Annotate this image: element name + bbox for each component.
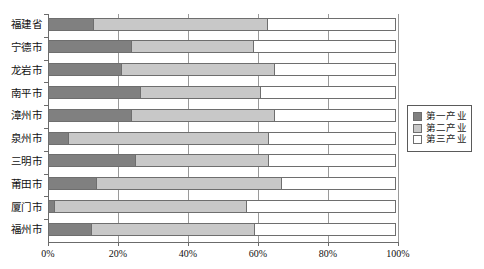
y-axis-label-1: 宁德市 [11,43,42,54]
legend-swatch-icon-2 [413,135,422,144]
y-axis-label-6: 三明市 [11,157,42,168]
stacked-bar[interactable] [48,223,398,236]
bar-segment-2[interactable] [91,223,256,236]
y-axis-label-5: 泉州市 [11,134,42,145]
y-axis-tick-4 [44,105,48,106]
bar-segment-1[interactable] [48,177,97,190]
stacked-bar[interactable] [48,177,398,190]
stacked-bar[interactable] [48,109,398,122]
bar-row: 福建省 [48,14,398,37]
bar-segment-2[interactable] [96,177,282,190]
x-axis-line [48,242,398,243]
bar-segment-3[interactable] [267,18,397,31]
x-axis-tick-label-3: 60% [249,248,267,259]
chart-legend: 第一产业 第二产业 第三产业 [407,105,472,152]
stacked-bar[interactable] [48,132,398,145]
y-axis-label-8: 厦门市 [11,203,42,214]
y-axis-tick-2 [44,60,48,61]
x-axis-tick-label-5: 100% [386,248,409,259]
stacked-bar-chart: 福建省宁德市龙岩市南平市漳州市泉州市三明市莆田市厦门市福州市 0%20%40%6… [0,0,484,269]
x-axis-tick-label-2: 40% [179,248,197,259]
y-axis-tick-3 [44,82,48,83]
x-axis-tick-label-4: 80% [319,248,337,259]
bar-segment-2[interactable] [93,18,268,31]
bar-segment-3[interactable] [281,177,397,190]
plot-area: 福建省宁德市龙岩市南平市漳州市泉州市三明市莆田市厦门市福州市 [48,14,398,242]
bar-segment-3[interactable] [268,132,396,145]
bar-segment-1[interactable] [48,40,132,53]
stacked-bar[interactable] [48,40,398,53]
y-axis-label-2: 龙岩市 [11,66,42,77]
x-axis-tick-1 [118,242,119,246]
y-axis-label-7: 莆田市 [11,180,42,191]
y-axis-tick-0 [44,14,48,15]
bar-segment-2[interactable] [121,63,275,76]
bar-segment-1[interactable] [48,18,94,31]
bar-row: 厦门市 [48,196,398,219]
legend-label-0: 第一产业 [426,112,467,122]
bar-segment-3[interactable] [254,223,396,236]
legend-label-1: 第二产业 [426,124,467,134]
bar-row: 泉州市 [48,128,398,151]
bar-segment-1[interactable] [48,63,122,76]
bar-segment-3[interactable] [268,154,396,167]
bar-row: 三明市 [48,151,398,174]
x-axis-tick-label-0: 0% [41,248,54,259]
bar-row: 龙岩市 [48,60,398,83]
x-axis-tick-0 [48,242,49,246]
legend-item-0[interactable]: 第一产业 [413,112,466,122]
stacked-bar[interactable] [48,200,398,213]
gridline-100 [398,14,399,242]
bar-segment-3[interactable] [274,109,397,122]
bar-segment-2[interactable] [131,40,254,53]
legend-swatch-icon-1 [413,124,422,133]
stacked-bar[interactable] [48,86,398,99]
y-axis-tick-6 [44,151,48,152]
bar-segment-3[interactable] [274,63,397,76]
y-axis-tick-8 [44,196,48,197]
stacked-bar[interactable] [48,154,398,167]
bar-row: 南平市 [48,82,398,105]
legend-item-1[interactable]: 第二产业 [413,124,466,134]
bar-segment-1[interactable] [48,223,92,236]
bar-segment-2[interactable] [135,154,270,167]
legend-item-2[interactable]: 第三产业 [413,135,466,145]
stacked-bar[interactable] [48,63,398,76]
legend-label-2: 第三产业 [426,135,467,145]
y-axis-label-0: 福建省 [11,20,42,31]
bar-segment-1[interactable] [48,86,141,99]
y-axis-label-3: 南平市 [11,89,42,100]
stacked-bar[interactable] [48,18,398,31]
x-axis-tick-4 [328,242,329,246]
bar-row: 福州市 [48,219,398,242]
y-axis-tick-1 [44,37,48,38]
bar-row: 漳州市 [48,105,398,128]
bar-segment-2[interactable] [54,200,247,213]
bar-segment-2[interactable] [131,109,275,122]
bar-segment-3[interactable] [246,200,397,213]
bar-segment-1[interactable] [48,132,69,145]
y-axis-label-9: 福州市 [11,225,42,236]
x-axis-tick-5 [398,242,399,246]
y-axis-tick-5 [44,128,48,129]
bar-segment-3[interactable] [253,40,397,53]
bar-segment-1[interactable] [48,109,132,122]
legend-swatch-icon-0 [413,112,422,121]
y-axis-tick-7 [44,174,48,175]
x-axis-tick-3 [258,242,259,246]
bar-segment-3[interactable] [260,86,397,99]
bar-segment-1[interactable] [48,154,136,167]
bar-segment-2[interactable] [140,86,261,99]
y-axis-label-4: 漳州市 [11,111,42,122]
bar-row: 宁德市 [48,37,398,60]
bar-row: 莆田市 [48,174,398,197]
y-axis-tick-9 [44,219,48,220]
x-axis-tick-label-1: 20% [109,248,127,259]
bar-segment-2[interactable] [68,132,269,145]
x-axis-tick-2 [188,242,189,246]
